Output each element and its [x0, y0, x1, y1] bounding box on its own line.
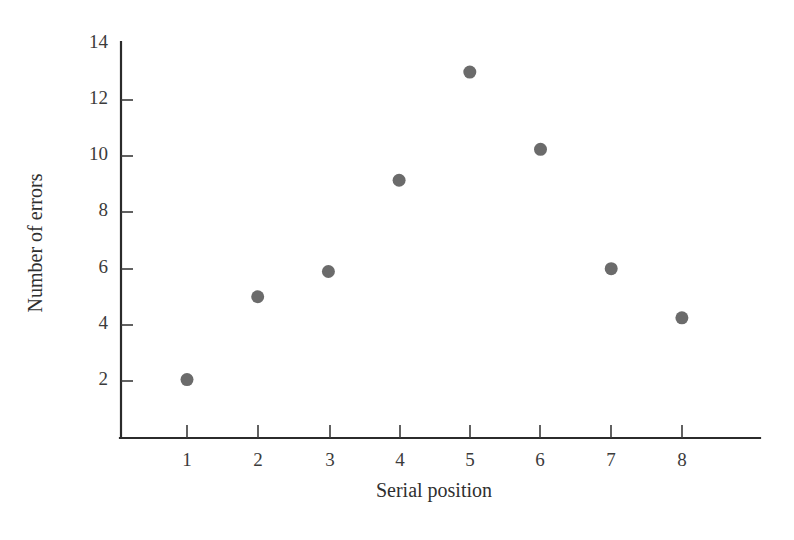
data-point-7 [605, 262, 618, 275]
data-point-6 [534, 143, 547, 156]
y-tick-label-4: 4 [99, 312, 109, 333]
y-tick-label-6: 6 [99, 256, 109, 277]
data-point-2 [251, 290, 264, 303]
x-tick-label-8: 8 [677, 449, 687, 470]
x-tick-label-2: 2 [253, 449, 263, 470]
y-tick-label-8: 8 [99, 199, 109, 220]
scatter-plot-figure: 2 4 6 8 10 12 14 1 2 3 4 5 6 7 [0, 0, 794, 540]
data-point-1 [181, 373, 194, 386]
x-axis-title: Serial position [376, 479, 492, 502]
x-tick-label-5: 5 [465, 449, 475, 470]
x-tick-label-4: 4 [395, 449, 405, 470]
data-point-5 [463, 66, 476, 79]
y-tick-label-14: 14 [89, 31, 109, 52]
x-tick-label-3: 3 [325, 449, 335, 470]
data-point-8 [675, 311, 688, 324]
x-tick-label-6: 6 [535, 449, 545, 470]
y-tick-label-10: 10 [89, 143, 108, 164]
y-tick-label-2: 2 [99, 368, 109, 389]
data-point-4 [393, 174, 406, 187]
plot-canvas: 2 4 6 8 10 12 14 1 2 3 4 5 6 7 [0, 0, 794, 540]
data-point-3 [322, 265, 335, 278]
x-tick-label-7: 7 [606, 449, 616, 470]
y-tick-label-12: 12 [89, 87, 108, 108]
x-tick-label-1: 1 [182, 449, 192, 470]
y-axis-title: Number of errors [24, 173, 46, 312]
